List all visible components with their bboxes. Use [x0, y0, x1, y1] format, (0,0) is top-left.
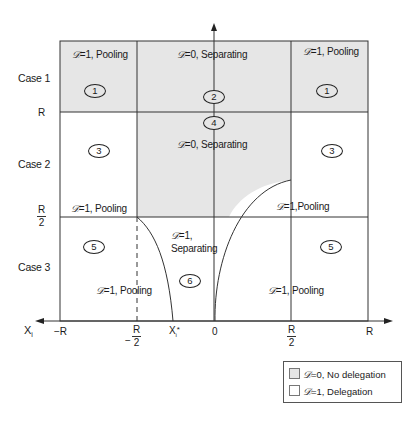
y-axis-arrow-icon [211, 23, 217, 31]
region-case2-mid-label: 𝒟=0, Separating [177, 140, 247, 150]
legend: 𝒟=0, No delegation 𝒟=1, Delegation [283, 361, 402, 403]
region-case1-mid-label: 𝒟=0, Separating [177, 50, 247, 60]
region-number-badge: 1 [84, 84, 106, 98]
left-boundary-curve [137, 217, 173, 321]
region-number-badge: 5 [83, 240, 105, 254]
region-case3-mid-label-line2: Separating [171, 244, 217, 254]
region-case2-right-label: 𝒟=1,Pooling [276, 202, 329, 212]
x-tick-zero: 0 [212, 327, 217, 337]
x-tick-xi-star: Xi* [169, 326, 180, 338]
x-tick-neg-R: −R [54, 327, 67, 337]
region-number-badge: 6 [179, 274, 201, 288]
x-axis-name: Xi [24, 325, 33, 338]
region-case3-right-label: 𝒟=1, Pooling [268, 286, 324, 296]
region-number-badge: 3 [321, 144, 343, 158]
region-number-badge: 1 [316, 84, 338, 98]
region-number-badge: 4 [203, 116, 225, 130]
region-case3-mid-label-line1: 𝒟=1, [171, 231, 192, 241]
x-tick-neg-half: R 2 [132, 325, 141, 348]
row-label-case2: Case 2 [18, 159, 50, 170]
x-tick-pos-half: R 2 [287, 325, 296, 348]
legend-item-delegation: 𝒟=1, Delegation [289, 385, 373, 398]
region-case1-right-label: 𝒟=1, Pooling [303, 47, 359, 57]
legend-swatch-unshaded-icon [289, 385, 300, 396]
region-case2-left-label: 𝒟=1, Pooling [71, 204, 127, 214]
legend-swatch-shaded-icon [289, 368, 300, 379]
x-axis-right-arrow-icon [384, 318, 393, 324]
x-tick-neg-half-sign: − [125, 336, 131, 346]
region-case1-left-label: 𝒟=1, Pooling [72, 50, 128, 60]
row-label-case3: Case 3 [18, 262, 50, 273]
y-tick-R-half: R 2 [37, 205, 46, 228]
region-number-badge: 2 [203, 90, 225, 104]
legend-item-no-delegation: 𝒟=0, No delegation [289, 368, 386, 381]
y-tick-R: R [38, 108, 45, 118]
x-axis-left-arrow-icon [35, 318, 44, 324]
region-number-badge: 5 [320, 240, 342, 254]
region-number-badge: 3 [88, 144, 110, 158]
row-label-case1: Case 1 [18, 73, 50, 84]
region-case3-left-label: 𝒟=1, Pooling [96, 286, 152, 296]
x-tick-R: R [366, 327, 373, 337]
